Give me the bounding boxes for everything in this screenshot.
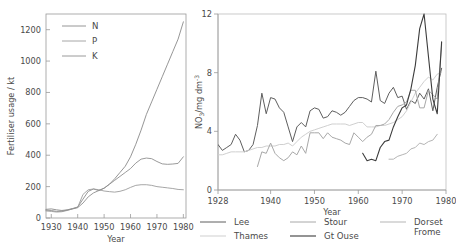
fertiliser-usage-chart: 0200400600800100012001930194019501960197… bbox=[0, 0, 196, 251]
nitrate-concentration-chart: 04812192819401950196019701980YearNO3/mg … bbox=[192, 0, 456, 251]
plot-frame bbox=[218, 14, 446, 190]
series-line-k bbox=[46, 157, 183, 212]
x-tick-label: 1950 bbox=[304, 196, 325, 206]
legend-label-thames: Thames bbox=[233, 231, 269, 241]
legend-label-gt-ouse: Gt Ouse bbox=[324, 231, 359, 241]
legend-label-p: P bbox=[92, 36, 97, 46]
x-tick-label: 1980 bbox=[173, 222, 194, 232]
y-tick-label: 4 bbox=[207, 126, 212, 136]
legend-label-k: K bbox=[92, 51, 98, 61]
x-axis-label: Year bbox=[322, 207, 341, 217]
y-tick-label: 200 bbox=[25, 182, 41, 192]
legend-label-stour: Stour bbox=[324, 217, 348, 227]
x-tick-label: 1950 bbox=[94, 222, 115, 232]
x-tick-label: 1928 bbox=[208, 196, 229, 206]
y-tick-label: 0 bbox=[207, 185, 212, 195]
y-tick-label: 1000 bbox=[20, 56, 41, 66]
series-line-p bbox=[46, 185, 183, 212]
y-tick-label: 1200 bbox=[20, 25, 41, 35]
x-tick-label: 1940 bbox=[67, 222, 88, 232]
series-line-dorset-frome bbox=[389, 134, 437, 159]
series-line-lee bbox=[218, 68, 442, 152]
x-tick-label: 1940 bbox=[260, 196, 281, 206]
legend-label-dorset-frome: DorsetFrome bbox=[414, 217, 443, 237]
legend-label-lee: Lee bbox=[234, 217, 249, 227]
chart-panel-fertiliser: 0200400600800100012001930194019501960197… bbox=[0, 0, 196, 251]
x-tick-label: 1960 bbox=[120, 222, 141, 232]
y-tick-label: 600 bbox=[25, 119, 41, 129]
x-tick-label: 1970 bbox=[147, 222, 168, 232]
y-tick-label: 400 bbox=[25, 150, 41, 160]
x-tick-label: 1930 bbox=[41, 222, 62, 232]
y-axis-label: NO3/mg dm-3 bbox=[193, 75, 205, 129]
y-tick-label: 12 bbox=[202, 9, 212, 19]
series-line-gt-ouse bbox=[363, 14, 442, 161]
x-axis-label: Year bbox=[106, 234, 125, 244]
series-line-n bbox=[46, 22, 183, 211]
legend-label-n: N bbox=[92, 21, 98, 31]
y-tick-label: 800 bbox=[25, 87, 41, 97]
chart-panel-nitrate: 04812192819401950196019701980YearNO3/mg … bbox=[192, 0, 456, 251]
x-tick-label: 1980 bbox=[436, 196, 456, 206]
y-axis-label: Fertiliser usage / kt bbox=[6, 76, 16, 155]
figure-container: 0200400600800100012001930194019501960197… bbox=[0, 0, 456, 251]
x-tick-label: 1960 bbox=[348, 196, 369, 206]
y-tick-label: 8 bbox=[207, 68, 212, 78]
x-tick-label: 1970 bbox=[392, 196, 413, 206]
